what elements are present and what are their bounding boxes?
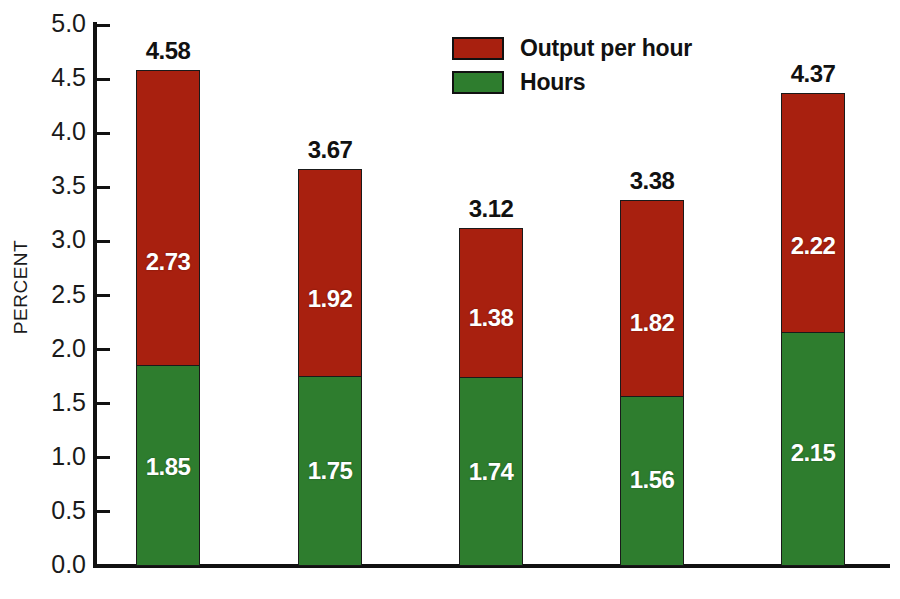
y-axis-tick	[97, 240, 110, 243]
legend-item-label: Output per hour	[520, 35, 692, 62]
y-axis-tick	[97, 565, 110, 568]
bar-segment-hours[interactable]: 1.75	[298, 377, 362, 566]
bar-group[interactable]: 3.671.921.751970–1979	[298, 169, 362, 566]
legend-item[interactable]: Hours	[452, 70, 692, 95]
bar-segment-value-label: 1.74	[469, 458, 514, 486]
y-axis-tick	[97, 402, 110, 405]
y-axis-tick-label: 0.0	[24, 550, 86, 579]
y-axis-tick	[97, 132, 110, 135]
y-axis-tick-label: 2.5	[24, 280, 86, 309]
bar-segment-hours[interactable]: 1.74	[459, 378, 523, 566]
legend-item-label: Hours	[520, 69, 585, 96]
y-axis-tick-label: 1.0	[24, 442, 86, 471]
bar-segment-output-per-hour[interactable]: 1.82	[620, 200, 684, 397]
bar-stack: 2.731.85	[136, 70, 200, 566]
bar-group[interactable]: 4.582.731.851960–1969	[136, 70, 200, 566]
y-axis-tick-label: 1.5	[24, 388, 86, 417]
y-axis-tick-label: 4.5	[24, 63, 86, 92]
bar-segment-value-label: 1.85	[146, 453, 191, 481]
bar-segment-output-per-hour[interactable]: 1.38	[459, 228, 523, 377]
bar-segment-value-label: 1.38	[469, 304, 514, 332]
y-axis-tick-label: 2.0	[24, 334, 86, 363]
bar-segment-value-label: 1.92	[308, 285, 353, 313]
bar-total-label: 3.67	[308, 136, 353, 164]
bar-stack: 1.821.56	[620, 200, 684, 566]
y-axis-tick-label: 4.0	[24, 117, 86, 146]
bar-segment-value-label: 1.75	[308, 457, 353, 485]
bar-total-label: 3.38	[630, 167, 675, 195]
bar-stack: 2.222.15	[781, 93, 845, 566]
bar-segment-value-label: 1.82	[630, 309, 675, 337]
bar-segment-output-per-hour[interactable]: 1.92	[298, 169, 362, 377]
y-axis-tick	[97, 78, 110, 81]
y-axis-tick	[97, 510, 110, 513]
y-axis-title: PERCENT	[10, 222, 32, 352]
y-axis-tick-label: 0.5	[24, 496, 86, 525]
bar-segment-value-label: 2.15	[791, 439, 836, 467]
bar-stack: 1.381.74	[459, 228, 523, 566]
bar-segment-value-label: 2.22	[791, 232, 836, 260]
y-axis-tick	[97, 186, 110, 189]
y-axis-tick	[97, 294, 110, 297]
bar-segment-hours[interactable]: 1.85	[136, 366, 200, 566]
y-axis-tick	[97, 348, 110, 351]
legend-color-swatch	[452, 37, 504, 60]
bar-segment-output-per-hour[interactable]: 2.73	[136, 70, 200, 365]
bar-stack: 1.921.75	[298, 169, 362, 566]
bar-total-label: 4.37	[791, 60, 836, 88]
y-axis-tick	[97, 456, 110, 459]
bar-total-label: 3.12	[469, 195, 514, 223]
y-axis-tick	[97, 24, 110, 27]
bar-total-label: 4.58	[146, 37, 191, 65]
bar-group[interactable]: 3.381.821.561990–1995	[620, 200, 684, 566]
y-axis-tick-label: 5.0	[24, 9, 86, 38]
legend-color-swatch	[452, 71, 504, 94]
y-axis-tick-label: 3.5	[24, 171, 86, 200]
bar-segment-value-label: 1.56	[630, 466, 675, 494]
bar-segment-hours[interactable]: 1.56	[620, 397, 684, 566]
bar-group[interactable]: 3.121.381.741980–1989	[459, 228, 523, 566]
y-axis-tick-label: 3.0	[24, 225, 86, 254]
stacked-bar-chart: 0.00.51.01.52.02.53.03.54.04.55.0 PERCEN…	[0, 0, 900, 599]
chart-legend: Output per hourHours	[452, 36, 692, 104]
bar-group[interactable]: 4.372.222.151995–2000	[781, 93, 845, 566]
bar-segment-hours[interactable]: 2.15	[781, 333, 845, 566]
legend-item[interactable]: Output per hour	[452, 36, 692, 61]
bar-segment-output-per-hour[interactable]: 2.22	[781, 93, 845, 333]
bar-segment-value-label: 2.73	[146, 248, 191, 276]
